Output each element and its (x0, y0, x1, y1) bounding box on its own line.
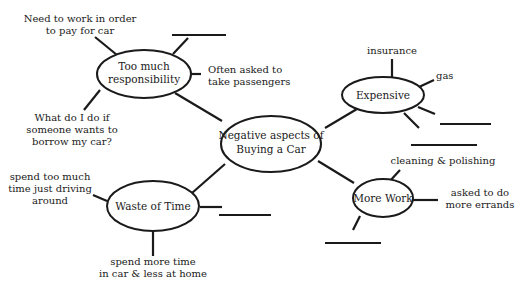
connector-center-expensive (325, 109, 357, 128)
connector-borrow-car (84, 90, 100, 110)
detail-work-to-pay: Need to work in order to pay for car (24, 13, 137, 36)
detail-driving-around-line-1: spend too much (10, 171, 91, 182)
responsibility-label-line-2: responsibility (108, 73, 180, 85)
detail-errands: asked to do more errands (446, 187, 515, 210)
detail-borrow-car-line-3: borrow my car? (32, 136, 112, 147)
detail-passengers: Often asked to take passengers (208, 64, 290, 87)
detail-borrow-car-line-2: someone wants to (26, 124, 117, 135)
branch-node-more-work: More Work (353, 179, 413, 217)
center-node: Negative aspects of Buying a Car (218, 116, 324, 172)
more-work-label: More Work (353, 192, 413, 204)
connector-expensive-blank-1 (418, 107, 435, 114)
branch-node-responsibility: Too much responsibility (97, 50, 191, 98)
detail-work-to-pay-line-2: to pay for car (46, 25, 115, 36)
connector-gas (419, 80, 434, 87)
connector-work-to-pay (95, 37, 117, 55)
connector-responsibility-blank (173, 38, 188, 54)
branch-node-expensive: Expensive (342, 77, 424, 113)
detail-passengers-line-1: Often asked to (208, 64, 282, 75)
detail-more-time-line-2: in car & less at home (99, 268, 207, 279)
center-label-line-1: Negative aspects of (218, 129, 324, 141)
connector-center-waste-of-time (192, 164, 225, 193)
expensive-label: Expensive (356, 89, 410, 101)
detail-errands-line-1: asked to do (451, 187, 509, 198)
connector-center-more-work (318, 161, 354, 183)
detail-driving-around-line-3: around (32, 195, 69, 206)
detail-driving-around-line-2: time just driving (8, 183, 92, 194)
detail-more-time-in-car: spend more time in car & less at home (99, 256, 207, 279)
detail-gas: gas (436, 70, 454, 81)
detail-driving-around: spend too much time just driving around (8, 171, 92, 206)
connector-center-responsibility (175, 93, 222, 121)
detail-borrow-car: What do I do if someone wants to borrow … (26, 112, 117, 147)
connector-driving-around (93, 195, 107, 201)
detail-errands-line-2: more errands (446, 199, 515, 210)
detail-passengers-line-2: take passengers (208, 76, 290, 87)
detail-cleaning-polishing: cleaning & polishing (391, 155, 496, 166)
connector-more-work-blank (353, 216, 360, 230)
detail-work-to-pay-line-1: Need to work in order (24, 13, 137, 24)
center-label-line-2: Buying a Car (236, 143, 306, 155)
detail-borrow-car-line-1: What do I do if (34, 112, 110, 123)
connector-expensive-blank-2 (404, 113, 419, 128)
mind-map-diagram: Negative aspects of Buying a Car Too muc… (0, 0, 521, 293)
responsibility-label-line-1: Too much (118, 60, 170, 72)
waste-of-time-label: Waste of Time (115, 200, 190, 212)
detail-more-time-line-1: spend more time (110, 256, 196, 267)
branch-node-waste-of-time: Waste of Time (107, 181, 199, 231)
detail-insurance: insurance (367, 45, 417, 56)
